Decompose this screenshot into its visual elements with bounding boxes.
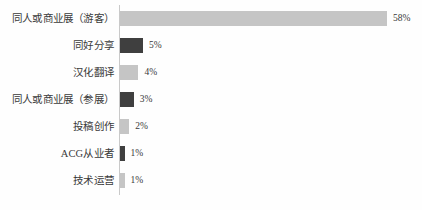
bar-row: ACG从业者1% [0, 140, 422, 167]
value-label: 4% [144, 59, 157, 86]
value-label: 2% [135, 113, 148, 140]
value-label: 5% [149, 32, 162, 59]
value-label: 58% [393, 5, 410, 32]
bar-chart: 同人或商业展（游客）58%同好分享5%汉化翻译4%同人或商业展（参展）3%投稿创… [0, 0, 422, 210]
bar [120, 65, 138, 80]
category-label: ACG从业者 [0, 140, 114, 167]
bar-row: 汉化翻译4% [0, 59, 422, 86]
bar [120, 146, 125, 161]
bar-row: 同人或商业展（参展）3% [0, 86, 422, 113]
plot-area: 同人或商业展（游客）58%同好分享5%汉化翻译4%同人或商业展（参展）3%投稿创… [0, 0, 422, 210]
category-label: 同人或商业展（游客） [0, 5, 114, 32]
bar [120, 173, 125, 188]
value-label: 1% [131, 167, 144, 194]
bar-row: 技术运营1% [0, 167, 422, 194]
bar-row: 同人或商业展（游客）58% [0, 5, 422, 32]
category-label: 同好分享 [0, 32, 114, 59]
bar-row: 投稿创作2% [0, 113, 422, 140]
bar-row: 同好分享5% [0, 32, 422, 59]
bar [120, 92, 134, 107]
bar [120, 11, 387, 26]
value-label: 3% [140, 86, 153, 113]
category-label: 汉化翻译 [0, 59, 114, 86]
bar [120, 38, 143, 53]
value-label: 1% [131, 140, 144, 167]
bar [120, 119, 129, 134]
category-label: 投稿创作 [0, 113, 114, 140]
category-label: 技术运营 [0, 167, 114, 194]
category-label: 同人或商业展（参展） [0, 86, 114, 113]
